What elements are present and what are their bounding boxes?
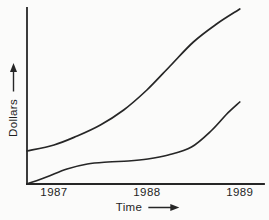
x-tick-1989: 1989	[226, 186, 253, 198]
right-arrow-icon	[148, 203, 180, 212]
x-tick-1988: 1988	[133, 186, 160, 198]
y-axis-label-text: Dollars	[7, 99, 19, 137]
x-axis-label-text: Time	[116, 201, 142, 213]
chart-figure: 1987 1988 1989 Time Dollars	[0, 0, 269, 220]
x-tick-1987: 1987	[40, 186, 67, 198]
y-axis-label: Dollars	[7, 63, 19, 137]
x-axis-label: Time	[116, 201, 180, 213]
up-arrow-icon	[9, 63, 18, 92]
upper-curve	[27, 9, 240, 151]
